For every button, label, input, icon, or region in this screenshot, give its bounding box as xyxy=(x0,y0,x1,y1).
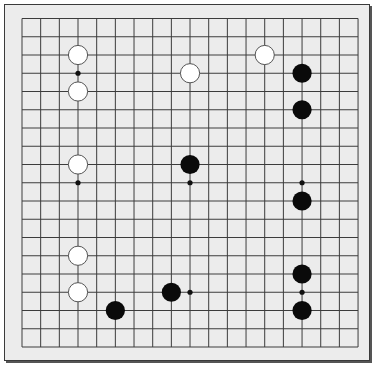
white-stone xyxy=(180,64,199,83)
black-stone xyxy=(292,301,311,320)
star-point xyxy=(299,180,304,185)
black-stone xyxy=(292,191,311,210)
star-point xyxy=(187,180,192,185)
white-stone xyxy=(68,155,87,174)
white-stone xyxy=(68,246,87,265)
go-board-grid[interactable] xyxy=(0,0,376,366)
black-stone xyxy=(292,264,311,283)
white-stone xyxy=(68,283,87,302)
black-stone xyxy=(292,100,311,119)
star-point xyxy=(187,290,192,295)
white-stone xyxy=(68,45,87,64)
white-stone xyxy=(68,82,87,101)
white-stone xyxy=(255,45,274,64)
star-point xyxy=(75,180,80,185)
star-point xyxy=(299,290,304,295)
star-point xyxy=(75,71,80,76)
black-stone xyxy=(292,64,311,83)
black-stone xyxy=(162,283,181,302)
black-stone xyxy=(106,301,125,320)
black-stone xyxy=(180,155,199,174)
